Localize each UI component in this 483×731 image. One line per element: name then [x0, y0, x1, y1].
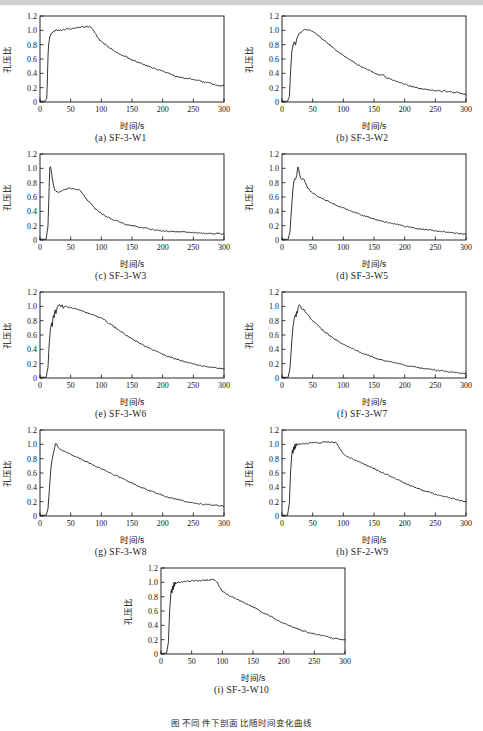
y-tick-label: 1.0 [269, 164, 279, 173]
plot-b: 05010015020025030000.20.40.60.81.01.2时间/… [242, 5, 483, 132]
panel-caption-f: (f) SF-3-W7 [242, 409, 483, 419]
y-tick-label: 0.8 [27, 317, 37, 326]
x-tick-label: 100 [216, 657, 228, 666]
y-tick-label: 0.2 [269, 222, 279, 231]
panel-row-1: 05010015020025030000.20.40.60.81.01.2时间/… [0, 5, 483, 143]
panel-cell-c: 05010015020025030000.20.40.60.81.01.2时间/… [0, 143, 242, 281]
x-axis-label: 时间/s [361, 121, 386, 131]
x-tick-label: 150 [368, 519, 380, 528]
x-tick-label: 300 [460, 105, 472, 114]
x-tick-label: 150 [247, 657, 259, 666]
x-tick-label: 100 [95, 519, 107, 528]
data-curve [40, 444, 224, 516]
x-tick-label: 0 [159, 657, 163, 666]
plot-frame [282, 292, 466, 378]
figure-caption: 图 不同 件下剖面 比随时间变化曲线 [0, 716, 483, 731]
x-tick-label: 50 [308, 381, 316, 390]
x-tick-label: 250 [187, 519, 199, 528]
x-axis-label: 时间/s [361, 397, 386, 407]
y-tick-label: 0.4 [269, 207, 279, 216]
y-tick-label: 0.4 [269, 345, 279, 354]
y-tick-label: 0 [154, 650, 158, 659]
y-tick-label: 0.6 [148, 607, 158, 616]
panel-cell-f: 05010015020025030000.20.40.60.81.01.2时间/… [242, 281, 483, 419]
data-curve [40, 167, 224, 240]
x-tick-label: 250 [429, 519, 441, 528]
y-tick-label: 1.0 [27, 302, 37, 311]
y-tick-label: 1.0 [269, 302, 279, 311]
x-tick-label: 250 [429, 105, 441, 114]
panel-caption-c: (c) SF-3-W3 [0, 271, 242, 281]
x-tick-label: 300 [460, 243, 472, 252]
plot-h: 05010015020025030000.20.40.60.81.01.2时间/… [242, 419, 483, 546]
y-tick-label: 0.8 [27, 179, 37, 188]
data-curve [282, 442, 466, 516]
panel-caption-e: (e) SF-3-W6 [0, 409, 242, 419]
y-tick-label: 0.2 [148, 636, 158, 645]
x-axis-label: 时间/s [120, 397, 145, 407]
x-tick-label: 100 [337, 381, 349, 390]
x-tick-label: 250 [187, 381, 199, 390]
y-axis-label: 孔压比 [123, 598, 133, 625]
y-tick-label: 1.2 [269, 426, 279, 435]
y-tick-label: 0.4 [27, 207, 37, 216]
x-tick-label: 50 [67, 105, 75, 114]
plot-i: 05010015020025030000.20.40.60.81.01.2时间/… [121, 557, 363, 684]
x-tick-label: 50 [67, 519, 75, 528]
y-tick-label: 0.8 [269, 41, 279, 50]
y-tick-label: 0.2 [269, 360, 279, 369]
x-tick-label: 0 [38, 381, 42, 390]
chart-g: 05010015020025030000.20.40.60.81.01.2时间/… [0, 419, 232, 546]
x-tick-label: 300 [218, 105, 230, 114]
x-tick-label: 0 [280, 105, 284, 114]
y-tick-label: 0 [33, 236, 37, 245]
x-tick-label: 200 [398, 105, 410, 114]
data-curve [161, 579, 345, 653]
y-tick-label: 0.2 [269, 84, 279, 93]
y-tick-label: 0.4 [269, 69, 279, 78]
x-axis-label: 时间/s [120, 259, 145, 269]
panel-cell-i: 05010015020025030000.20.40.60.81.01.2时间/… [121, 557, 363, 695]
y-tick-label: 0 [33, 98, 37, 107]
x-tick-label: 200 [157, 381, 169, 390]
y-tick-label: 1.2 [27, 288, 37, 297]
x-tick-label: 200 [277, 657, 289, 666]
x-tick-label: 200 [398, 243, 410, 252]
x-tick-label: 100 [95, 381, 107, 390]
y-axis-label: 孔压比 [244, 46, 254, 73]
panel-cell-a: 05010015020025030000.20.40.60.81.01.2时间/… [0, 5, 242, 143]
y-tick-label: 0.2 [27, 498, 37, 507]
x-tick-label: 150 [126, 381, 138, 390]
y-tick-label: 0.2 [27, 84, 37, 93]
data-curve [40, 26, 224, 101]
y-axis-label: 孔压比 [2, 322, 12, 349]
y-tick-label: 1.0 [269, 26, 279, 35]
y-tick-label: 0.6 [269, 469, 279, 478]
y-tick-label: 0 [275, 374, 279, 383]
y-axis-label: 孔压比 [244, 460, 254, 487]
y-tick-label: 0.4 [27, 483, 37, 492]
chart-b: 05010015020025030000.20.40.60.81.01.2时间/… [242, 5, 474, 132]
x-tick-label: 250 [429, 381, 441, 390]
chart-f: 05010015020025030000.20.40.60.81.01.2时间/… [242, 281, 474, 408]
panel-row-2: 05010015020025030000.20.40.60.81.01.2时间/… [0, 143, 483, 281]
panel-cell-h: 05010015020025030000.20.40.60.81.01.2时间/… [242, 419, 483, 557]
panel-caption-d: (d) SF-3-W5 [242, 271, 483, 281]
x-tick-label: 50 [308, 105, 316, 114]
y-tick-label: 0.2 [27, 360, 37, 369]
x-tick-label: 0 [38, 105, 42, 114]
x-tick-label: 200 [398, 381, 410, 390]
x-tick-label: 150 [368, 381, 380, 390]
panel-caption-b: (b) SF-3-W2 [242, 133, 483, 143]
chart-h: 05010015020025030000.20.40.60.81.01.2时间/… [242, 419, 474, 546]
y-tick-label: 1.0 [269, 440, 279, 449]
panel-cell-b: 05010015020025030000.20.40.60.81.01.2时间/… [242, 5, 483, 143]
y-tick-label: 0.6 [269, 55, 279, 64]
y-tick-label: 1.2 [27, 426, 37, 435]
panel-caption-g: (g) SF-3-W8 [0, 547, 242, 557]
x-axis-label: 时间/s [120, 121, 145, 131]
plot-c: 05010015020025030000.20.40.60.81.01.2时间/… [0, 143, 242, 270]
panel-caption-h: (h) SF-2-W9 [242, 547, 483, 557]
y-tick-label: 0.8 [269, 179, 279, 188]
y-tick-label: 0 [33, 374, 37, 383]
